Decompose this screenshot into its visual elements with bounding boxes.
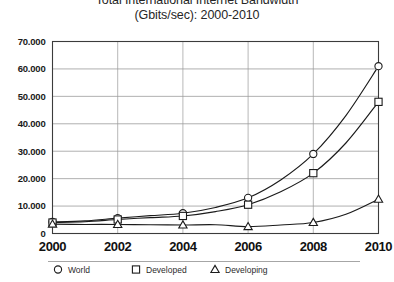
y-tick-label: 30.000: [18, 146, 46, 157]
y-tick-label: 0: [40, 228, 45, 239]
y-tick-label: 70.000: [18, 36, 46, 47]
data-point-marker: [310, 150, 317, 157]
axis-frame: [53, 42, 379, 234]
data-point-marker: [310, 170, 317, 177]
chart-legend: WorldDevelopedDeveloping: [48, 262, 360, 275]
y-tick-label: 40.000: [18, 118, 46, 129]
legend-item-developing[interactable]: Developing: [211, 265, 268, 275]
chart-container: Total International Internet Bandwidth (…: [0, 0, 394, 282]
y-tick-label: 10.000: [18, 200, 46, 211]
legend-item-developed[interactable]: Developed: [132, 265, 187, 275]
grid-layer: [53, 42, 379, 234]
data-point-marker: [245, 201, 252, 208]
data-point-marker: [245, 194, 252, 201]
series-world: [49, 63, 382, 226]
legend-marker-circle: [54, 266, 61, 273]
data-point-marker: [375, 98, 382, 105]
legend-marker-square: [132, 266, 139, 273]
data-point-marker: [179, 212, 186, 219]
y-axis-tick-labels: 010.00020.00030.00040.00050.00060.00070.…: [18, 36, 46, 239]
legend-label: Developed: [146, 265, 187, 275]
legend-marker-triangle: [211, 265, 219, 272]
data-series-layer: [48, 63, 382, 230]
x-axis-tick-labels: 200020022004200620082010: [39, 239, 392, 254]
data-point-marker: [374, 195, 382, 202]
y-tick-label: 60.000: [18, 63, 46, 74]
x-tick-label: 2006: [234, 239, 261, 254]
x-tick-label: 2004: [169, 239, 197, 254]
x-tick-label: 2000: [39, 239, 66, 254]
x-tick-label: 2008: [300, 239, 327, 254]
data-point-marker: [375, 63, 382, 70]
y-tick-label: 20.000: [18, 173, 46, 184]
series-developing: [48, 195, 382, 230]
legend-label: Developing: [225, 265, 268, 275]
line-chart-plot: 010.00020.00030.00040.00050.00060.00070.…: [0, 0, 394, 282]
legend-item-world[interactable]: World: [54, 265, 90, 275]
x-tick-label: 2010: [365, 239, 392, 254]
y-tick-label: 50.000: [18, 91, 46, 102]
legend-label: World: [68, 265, 90, 275]
x-tick-label: 2002: [104, 239, 131, 254]
